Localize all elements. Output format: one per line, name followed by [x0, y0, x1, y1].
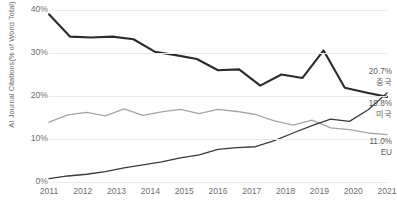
- x-axis-tick-label: 2021: [377, 186, 396, 196]
- series-annotation: 11.0%EU: [369, 137, 392, 159]
- series-name-label: 미국: [369, 110, 392, 121]
- series-line: [49, 109, 387, 135]
- y-axis-tick-label: 20%: [14, 90, 48, 100]
- x-axis-tick-label: 2013: [107, 186, 126, 196]
- series-annotation: 20.7%중국: [369, 67, 392, 89]
- gridline: [49, 182, 387, 183]
- gridline: [49, 96, 387, 97]
- x-axis-tick-label: 2018: [276, 186, 295, 196]
- x-axis-tick-label: 2012: [73, 186, 92, 196]
- y-axis-tick-label: 40%: [14, 4, 48, 14]
- x-axis-tick-label: 2016: [208, 186, 227, 196]
- x-axis-tick-label: 2014: [141, 186, 160, 196]
- y-axis-tick-label: 10%: [14, 133, 48, 143]
- gridline: [49, 10, 387, 11]
- series-line: [49, 93, 387, 179]
- x-axis-tick-label: 2011: [40, 186, 58, 196]
- gridline: [49, 53, 387, 54]
- series-end-value: 20.7%: [369, 67, 392, 78]
- y-axis-tick-label: 30%: [14, 47, 48, 57]
- x-axis-tick-label: 2020: [344, 186, 363, 196]
- y-axis-tick-label: 0%: [14, 176, 48, 186]
- series-name-label: 중국: [369, 78, 392, 89]
- series-name-label: EU: [369, 148, 392, 159]
- plot-area: [49, 10, 387, 182]
- series-line: [49, 14, 387, 97]
- x-axis-tick-label: 2015: [175, 186, 194, 196]
- x-axis-tick-label: 2019: [310, 186, 329, 196]
- series-end-value: 19.8%: [369, 99, 392, 110]
- x-axis-tick-label: 2017: [242, 186, 261, 196]
- series-annotation: 19.8%미국: [369, 99, 392, 121]
- y-axis-tick-labels: 0%10%20%30%40%: [12, 0, 48, 210]
- series-end-value: 11.0%: [369, 137, 392, 148]
- gridline: [49, 139, 387, 140]
- x-axis-tick-labels: 2011201220132014201520162017201820192020…: [49, 186, 387, 206]
